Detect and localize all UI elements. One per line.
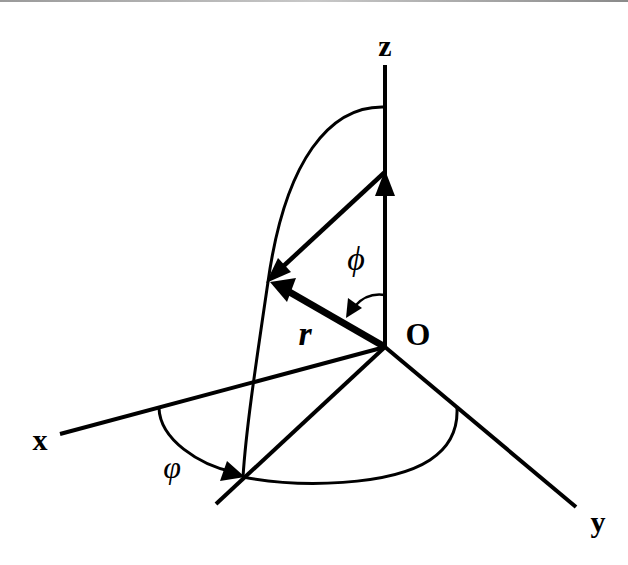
y-axis	[385, 347, 576, 507]
polar-angle-arc	[355, 295, 385, 306]
x-axis-label: x	[33, 423, 48, 456]
origin-label: O	[406, 316, 431, 352]
radius-label: r	[298, 315, 312, 352]
polar-angle-label: ϕ	[347, 240, 365, 277]
meridian-arc	[243, 107, 385, 477]
y-axis-label: y	[591, 505, 606, 538]
spherical-coordinates-diagram: z x y O r ϕ φ	[0, 0, 628, 565]
z-axis-label: z	[378, 29, 391, 62]
equator-arc	[243, 408, 457, 483]
azimuth-angle-label: φ	[163, 449, 181, 485]
